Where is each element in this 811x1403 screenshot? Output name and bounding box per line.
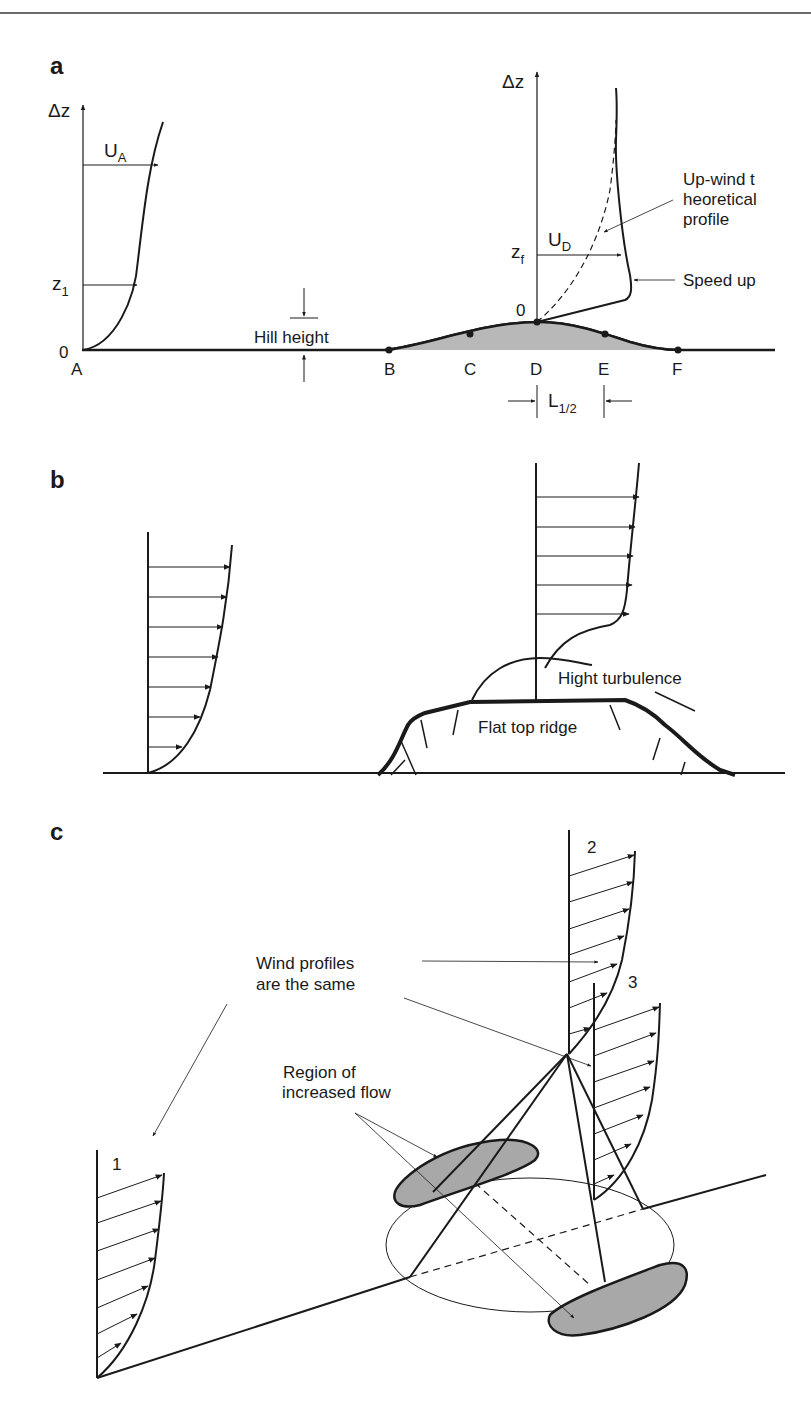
profile-2-label: 2 — [587, 838, 596, 857]
flat-top-ridge — [378, 700, 735, 775]
point-e: E — [598, 360, 609, 379]
same-profile-label-line2: are the same — [256, 975, 355, 994]
figure-canvas: Δz UA z1 0 Hill height Δz 0 UD zf Up-win… — [0, 0, 811, 1403]
theory-label-line1: Up-wind t — [683, 170, 755, 189]
turbulence-label: Hight turbulence — [558, 669, 682, 688]
crest-profile — [537, 88, 631, 322]
point-d: D — [530, 360, 542, 379]
hill-height-label: Hill height — [254, 328, 329, 347]
theory-label-line3: profile — [683, 210, 729, 229]
point-b: B — [384, 360, 395, 379]
upwind-origin-label: 0 — [59, 343, 68, 362]
same-profile-label-line1: Wind profiles — [256, 954, 354, 973]
crest-origin-label: 0 — [516, 301, 525, 320]
region-label-line2: increased flow — [282, 1083, 391, 1102]
ua-label: UA — [104, 140, 127, 165]
speed-up-label: Speed up — [683, 271, 756, 290]
ud-label: UD — [548, 229, 571, 254]
crest-axis-label: Δz — [502, 71, 524, 92]
theoretical-profile — [537, 120, 616, 322]
region-blob-lower — [549, 1263, 687, 1335]
ridge-label: Flat top ridge — [478, 718, 577, 737]
profile-3-label: 3 — [628, 973, 637, 992]
profile-1-label: 1 — [112, 1155, 121, 1174]
panel-c: 1 2 3 Wind profiles are the same Region … — [97, 830, 766, 1378]
z1-label: z1 — [52, 273, 69, 299]
hill-shape — [385, 322, 680, 350]
half-length-label: L1/2 — [548, 390, 577, 416]
region-label-line1: Region of — [283, 1063, 356, 1082]
panel-b: Hight turbulence Flat top ridge — [103, 463, 785, 775]
point-f: F — [672, 360, 682, 379]
upwind-axis-label: Δz — [48, 100, 70, 121]
theory-pointer — [604, 200, 673, 232]
zf-label: zf — [511, 241, 525, 267]
panel-a: Δz UA z1 0 Hill height Δz 0 UD zf Up-win… — [48, 71, 775, 418]
theory-label-line2: heoretical — [683, 190, 757, 209]
point-c: C — [464, 360, 476, 379]
point-a: A — [71, 360, 83, 379]
